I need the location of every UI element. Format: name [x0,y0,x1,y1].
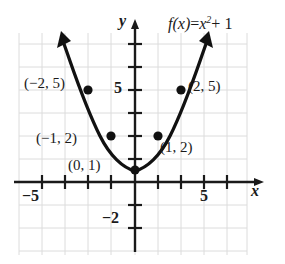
point-marker [83,85,92,94]
function-equation-label: f(x)=x2+ 1 [168,14,232,33]
point-marker [176,85,185,94]
y-axis-label: y [119,12,126,30]
y-axis-arrow [131,19,139,29]
point-label-neg2-5: (−2, 5) [24,75,65,92]
x-tick-label-neg5: −5 [22,187,39,205]
point-marker [106,131,115,140]
function-argument: (x) [172,15,190,32]
point-label-neg1-2: (−1, 2) [36,130,77,147]
point-marker [130,165,139,174]
x-axis-label: x [251,182,259,200]
function-tail: + 1 [211,15,232,32]
y-tick-label-5: 5 [114,79,122,97]
point-label-2-5: (2, 5) [188,78,221,95]
x-tick-label-5: 5 [200,187,208,205]
equals-sign: = [190,15,199,32]
y-tick-label-neg2: −2 [102,209,119,227]
graph-figure: f(x)=x2+ 1 y x −5 5 5 −2 (−2, 5) (−1, 2)… [0,0,285,264]
point-label-1-2: (1, 2) [160,139,193,156]
point-label-0-1: (0, 1) [68,157,101,174]
